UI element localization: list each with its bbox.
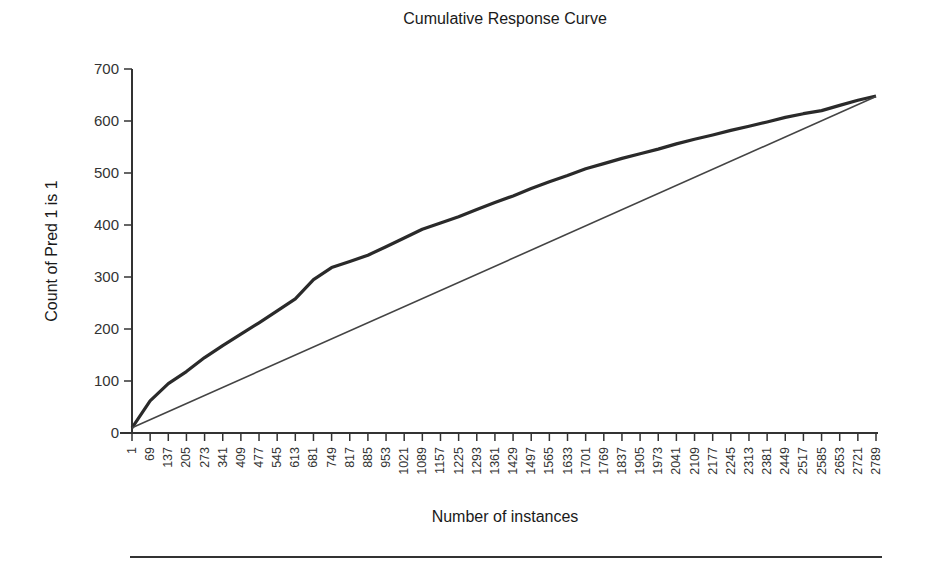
x-tick-label: 273 (198, 447, 212, 468)
y-tick-label: 600 (94, 112, 119, 129)
x-tick-label: 137 (161, 447, 175, 468)
x-tick-label: 2449 (778, 447, 792, 475)
y-tick-label: 300 (94, 268, 119, 285)
x-tick-label: 1429 (506, 447, 520, 475)
y-tick-label: 0 (111, 424, 119, 441)
y-tick-label: 400 (94, 216, 119, 233)
plot-area: 0100200300400500600700169137205273341409… (0, 0, 927, 572)
baseline-line (132, 97, 876, 428)
x-tick-label: 885 (361, 447, 375, 468)
x-tick-label: 1361 (488, 447, 502, 475)
x-tick-label: 1905 (633, 447, 647, 475)
x-tick-label: 2041 (669, 447, 683, 475)
x-tick-label: 545 (270, 447, 284, 468)
x-tick-label: 2653 (833, 447, 847, 475)
x-tick-label: 2381 (760, 447, 774, 475)
x-tick-label: 477 (252, 447, 266, 468)
x-tick-label: 681 (306, 447, 320, 468)
y-tick-label: 700 (94, 60, 119, 77)
x-tick-label: 2721 (851, 447, 865, 475)
x-tick-label: 817 (343, 447, 357, 468)
x-tick-label: 69 (143, 447, 157, 461)
x-tick-label: 341 (216, 447, 230, 468)
x-tick-label: 1565 (542, 447, 556, 475)
x-tick-label: 2245 (724, 447, 738, 475)
x-tick-label: 1225 (452, 447, 466, 475)
x-tick-label: 409 (234, 447, 248, 468)
x-tick-label: 1293 (470, 447, 484, 475)
x-tick-label: 2177 (706, 447, 720, 475)
x-tick-label: 2517 (796, 447, 810, 475)
x-tick-label: 1089 (415, 447, 429, 475)
x-tick-label: 1497 (524, 447, 538, 475)
y-tick-label: 100 (94, 372, 119, 389)
x-tick-label: 205 (179, 447, 193, 468)
x-tick-label: 749 (325, 447, 339, 468)
x-tick-label: 953 (379, 447, 393, 468)
x-tick-label: 1021 (397, 447, 411, 475)
x-tick-label: 2789 (869, 447, 883, 475)
x-tick-label: 1837 (615, 447, 629, 475)
x-tick-label: 1973 (651, 447, 665, 475)
x-tick-label: 2585 (815, 447, 829, 475)
x-tick-label: 1769 (597, 447, 611, 475)
cumulative-response-chart: Cumulative Response Curve Count of Pred … (0, 0, 927, 572)
x-tick-label: 2109 (688, 447, 702, 475)
x-tick-label: 1 (125, 447, 139, 454)
y-tick-label: 500 (94, 164, 119, 181)
x-tick-label: 613 (288, 447, 302, 468)
x-tick-label: 1157 (433, 447, 447, 474)
x-tick-label: 2313 (742, 447, 756, 475)
y-tick-label: 200 (94, 320, 119, 337)
separator-line (130, 556, 882, 558)
x-tick-label: 1701 (579, 447, 593, 475)
x-tick-label: 1633 (561, 447, 575, 475)
